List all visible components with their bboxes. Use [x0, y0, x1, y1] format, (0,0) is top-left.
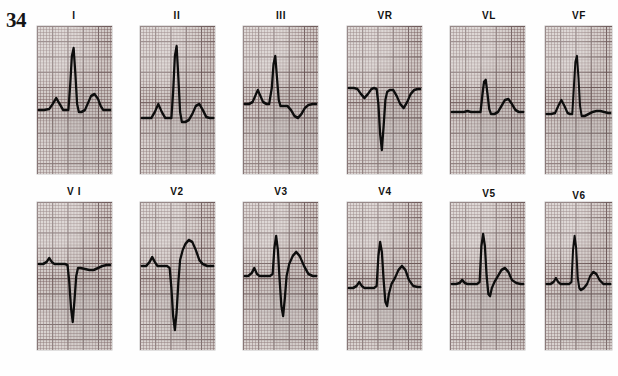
ecg-strip-i: [37, 26, 112, 174]
lead-label-v1: V I: [67, 186, 81, 197]
ecg-strip-v2: [140, 202, 215, 350]
ecg-trace-i: [37, 26, 112, 174]
figure-number: 34: [6, 8, 26, 33]
ecg-trace-vf: [545, 26, 612, 174]
ecg-strip-vf: [545, 26, 612, 174]
lead-label-vr: VR: [377, 10, 392, 21]
ecg-strip-v6: [545, 202, 612, 350]
lead-label-v6: V6: [572, 190, 585, 201]
lead-label-ii: II: [174, 10, 181, 21]
ecg-strip-vl: [450, 26, 525, 174]
ecg-trace-vl: [450, 26, 525, 174]
lead-label-v2: V2: [170, 186, 183, 197]
lead-label-vl: VL: [482, 10, 496, 21]
ecg-trace-v4: [347, 202, 422, 350]
ecg-trace-ii: [140, 26, 215, 174]
ecg-trace-v1: [37, 202, 112, 350]
ecg-figure: 34 I II III VR VL VF: [0, 0, 618, 376]
ecg-strip-iii: [243, 26, 318, 174]
ecg-strip-v3: [243, 202, 318, 350]
lead-label-v5: V5: [482, 188, 495, 199]
ecg-trace-v3: [243, 202, 318, 350]
ecg-strip-v4: [347, 202, 422, 350]
lead-label-i: I: [72, 10, 75, 21]
lead-label-v3: V3: [274, 186, 287, 197]
lead-label-v4: V4: [378, 186, 391, 197]
ecg-trace-v6: [545, 202, 612, 350]
ecg-trace-iii: [243, 26, 318, 174]
ecg-strip-v5: [450, 202, 525, 350]
ecg-trace-v5: [450, 202, 525, 350]
ecg-strip-vr: [347, 26, 422, 174]
ecg-trace-vr: [347, 26, 422, 174]
lead-label-iii: III: [276, 10, 286, 21]
ecg-strip-ii: [140, 26, 215, 174]
ecg-trace-v2: [140, 202, 215, 350]
lead-label-vf: VF: [572, 10, 586, 21]
ecg-strip-v1: [37, 202, 112, 350]
